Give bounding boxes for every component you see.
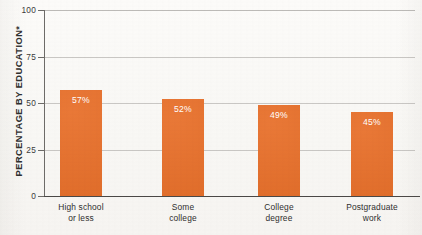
bar-chart: PERCENTAGE BY EDUCATION* 100 75 50 25 0 … bbox=[0, 0, 422, 235]
bar-some-college[interactable]: 52% bbox=[162, 99, 204, 196]
tick-mark-0 bbox=[38, 196, 44, 197]
bar-college-degree[interactable]: 49% bbox=[258, 105, 300, 196]
category-label-line2: college bbox=[143, 213, 223, 224]
category-label-line2: degree bbox=[239, 213, 319, 224]
tick-mark-100 bbox=[38, 10, 44, 11]
bar-value-label: 57% bbox=[60, 95, 102, 105]
x-axis-line bbox=[44, 196, 420, 197]
tick-label-50: 50 bbox=[10, 98, 36, 108]
tick-mark-25 bbox=[38, 150, 44, 151]
category-label-college-degree: College degree bbox=[239, 202, 319, 224]
bar-value-label: 49% bbox=[258, 110, 300, 120]
category-label-line1: Some bbox=[143, 202, 223, 213]
category-label-line2: work bbox=[330, 213, 414, 224]
bar-value-label: 52% bbox=[162, 104, 204, 114]
bar-high-school-or-less[interactable]: 57% bbox=[60, 90, 102, 196]
category-label-high-school-or-less: High school or less bbox=[41, 202, 121, 224]
category-label-line2: or less bbox=[41, 213, 121, 224]
category-label-line1: Postgraduate bbox=[330, 202, 414, 213]
category-label-line1: College bbox=[239, 202, 319, 213]
category-label-line1: High school bbox=[41, 202, 121, 213]
tick-mark-75 bbox=[38, 57, 44, 58]
tick-label-0: 0 bbox=[10, 191, 36, 201]
tick-label-100: 100 bbox=[10, 5, 36, 15]
category-label-postgraduate-work: Postgraduate work bbox=[330, 202, 414, 224]
tick-label-25: 25 bbox=[10, 145, 36, 155]
bar-value-label: 45% bbox=[351, 117, 393, 127]
y-axis-line bbox=[44, 10, 45, 197]
gridline-75 bbox=[44, 57, 415, 58]
category-label-some-college: Some college bbox=[143, 202, 223, 224]
tick-label-75: 75 bbox=[10, 52, 36, 62]
gridline-100 bbox=[44, 10, 415, 11]
bar-postgraduate-work[interactable]: 45% bbox=[351, 112, 393, 196]
tick-mark-50 bbox=[38, 103, 44, 104]
